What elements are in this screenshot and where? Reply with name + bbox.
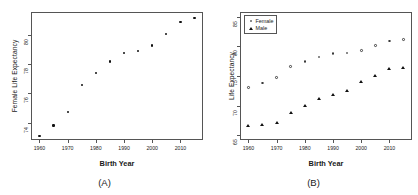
data-point-male xyxy=(275,121,279,124)
panel-a: Female Life Expectancy 19601970198019902… xyxy=(0,0,209,195)
panel-a-plot-area xyxy=(31,12,203,140)
x-tick xyxy=(389,140,390,143)
data-point-male xyxy=(401,66,405,69)
data-point-male xyxy=(246,124,250,127)
data-point-male xyxy=(359,80,363,83)
legend-label-male: Male xyxy=(256,25,268,31)
data-point-male xyxy=(331,93,335,96)
x-tick xyxy=(68,140,69,143)
x-tick xyxy=(124,140,125,143)
data-point-male xyxy=(289,111,293,114)
data-point-female xyxy=(374,44,377,47)
x-tick-label: 1990 xyxy=(114,145,134,151)
x-tick-label: 2010 xyxy=(379,145,399,151)
data-point-male xyxy=(260,123,264,126)
data-point-male xyxy=(387,67,391,70)
data-point-male xyxy=(373,74,377,77)
data-point-male xyxy=(345,89,349,92)
y-tick-label: 76 xyxy=(23,93,29,107)
filled-triangle-icon xyxy=(247,27,255,30)
x-tick xyxy=(248,140,249,143)
x-tick xyxy=(361,140,362,143)
data-point-female xyxy=(275,76,278,79)
x-tick xyxy=(152,140,153,143)
x-tick xyxy=(305,140,306,143)
data-point xyxy=(193,17,195,19)
y-tick-label: 80 xyxy=(23,35,29,49)
open-circle-icon xyxy=(247,20,255,23)
x-tick xyxy=(333,140,334,143)
x-tick-label: 1980 xyxy=(295,145,315,151)
panel-b-caption: (B) xyxy=(209,177,418,188)
data-point xyxy=(52,124,54,126)
panel-a-x-axis-label: Birth Year xyxy=(31,159,203,168)
x-tick-label: 1970 xyxy=(267,145,287,151)
data-point-female xyxy=(360,49,363,52)
x-tick-label: 1960 xyxy=(29,145,49,151)
data-point-male xyxy=(303,104,307,107)
data-point xyxy=(38,135,40,137)
x-tick xyxy=(277,140,278,143)
data-point xyxy=(81,84,83,86)
data-point-female xyxy=(289,65,292,68)
y-tick-label: 80 xyxy=(232,46,238,60)
y-tick-label: 85 xyxy=(232,17,238,31)
y-tick-label: 74 xyxy=(23,123,29,137)
two-panel-scatter-figure: Female Life Expectancy 19601970198019902… xyxy=(0,0,418,195)
y-tick-label: 75 xyxy=(232,76,238,90)
data-point xyxy=(109,60,111,62)
y-tick-label: 70 xyxy=(232,106,238,120)
x-tick-label: 1990 xyxy=(323,145,343,151)
legend-entry-female: Female xyxy=(247,18,273,25)
data-point xyxy=(123,52,125,54)
x-tick-label: 1980 xyxy=(86,145,106,151)
x-tick-label: 2010 xyxy=(170,145,190,151)
panel-a-caption: (A) xyxy=(0,177,209,188)
data-point-female xyxy=(247,86,250,89)
x-tick xyxy=(96,140,97,143)
panel-a-y-axis-label: Female Life Expectancy xyxy=(11,40,18,113)
data-point-male xyxy=(317,97,321,100)
legend-entry-male: Male xyxy=(247,25,273,32)
x-tick xyxy=(180,140,181,143)
legend-label-female: Female xyxy=(256,18,274,24)
legend: Female Male xyxy=(244,15,277,34)
x-tick-label: 1970 xyxy=(58,145,78,151)
x-tick xyxy=(39,140,40,143)
data-point xyxy=(179,21,181,23)
y-tick-label: 78 xyxy=(23,64,29,78)
panel-b-x-axis-label: Birth Year xyxy=(240,159,412,168)
data-point-female xyxy=(402,38,405,41)
x-tick-label: 1960 xyxy=(238,145,258,151)
panel-b: Life Expectancy 196019701980199020002010… xyxy=(209,0,418,195)
x-tick-label: 2000 xyxy=(351,145,371,151)
x-tick-label: 2000 xyxy=(142,145,162,151)
y-tick-label: 65 xyxy=(232,135,238,149)
